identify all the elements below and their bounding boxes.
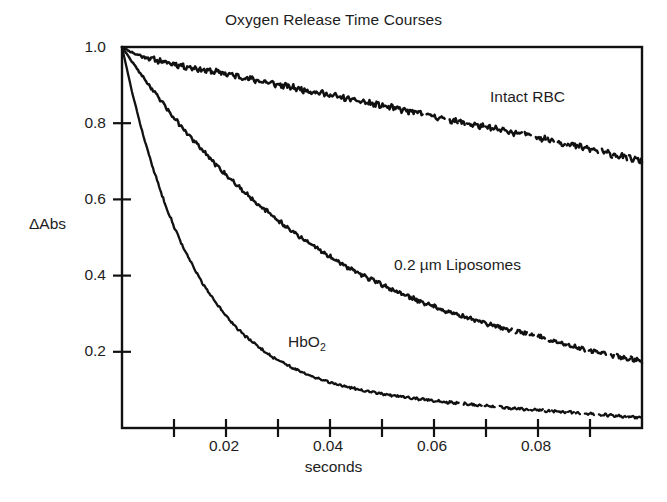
data-curves (122, 47, 642, 418)
axis-ticks (113, 123, 590, 437)
plot-svg (0, 0, 667, 502)
figure-container: Oxygen Release Time Courses ΔAbs seconds… (0, 0, 667, 502)
